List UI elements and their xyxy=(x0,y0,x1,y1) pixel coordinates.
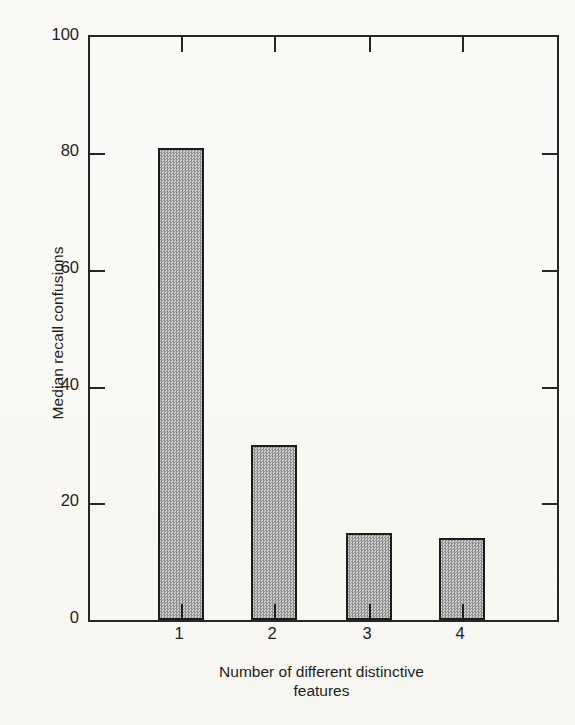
bar-category-4[interactable] xyxy=(439,538,485,620)
y-tick-mark-right-80 xyxy=(542,153,557,155)
x-axis-title: Number of different distinctive features xyxy=(88,662,555,700)
x-tick-mark-bottom-3 xyxy=(369,604,371,618)
y-tick-mark-60 xyxy=(90,270,105,272)
x-axis-title-line2: features xyxy=(88,681,555,700)
x-tick-label-1: 1 xyxy=(159,624,199,643)
y-tick-label-80: 80 xyxy=(27,141,79,160)
y-tick-label-100: 100 xyxy=(27,25,79,44)
y-tick-mark-right-40 xyxy=(542,387,557,389)
y-tick-mark-80 xyxy=(90,153,105,155)
bar-category-1[interactable] xyxy=(158,148,204,620)
x-tick-mark-bottom-2 xyxy=(274,604,276,618)
bar-category-2[interactable] xyxy=(251,445,297,620)
y-tick-label-0: 0 xyxy=(27,608,79,627)
x-tick-mark-top-4 xyxy=(462,37,464,52)
x-tick-label-2: 2 xyxy=(252,624,292,643)
x-tick-mark-top-3 xyxy=(369,37,371,52)
y-tick-label-20: 20 xyxy=(27,491,79,510)
bar-chart-figure: Median recall confusions 100 80 60 40 20… xyxy=(0,0,575,725)
y-tick-mark-20 xyxy=(90,503,105,505)
plot-area xyxy=(88,35,559,622)
page-background: Median recall confusions 100 80 60 40 20… xyxy=(0,0,575,725)
y-tick-mark-right-20 xyxy=(542,503,557,505)
y-tick-label-60: 60 xyxy=(27,258,79,277)
x-tick-mark-top-2 xyxy=(274,37,276,52)
x-axis-title-line1: Number of different distinctive xyxy=(219,663,424,680)
y-tick-label-40: 40 xyxy=(27,375,79,394)
x-tick-mark-bottom-1 xyxy=(181,604,183,618)
x-tick-mark-top-1 xyxy=(181,37,183,52)
bar-category-3[interactable] xyxy=(346,533,392,620)
x-tick-label-3: 3 xyxy=(347,624,387,643)
x-tick-mark-bottom-4 xyxy=(462,604,464,618)
y-tick-mark-40 xyxy=(90,387,105,389)
y-axis-title: Median recall confusions xyxy=(49,183,67,483)
x-tick-label-4: 4 xyxy=(440,624,480,643)
y-tick-mark-right-60 xyxy=(542,270,557,272)
